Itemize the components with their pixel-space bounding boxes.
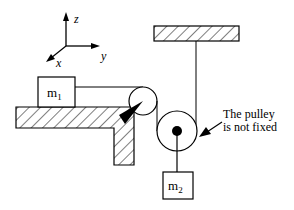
fixed-pulley bbox=[119, 87, 157, 124]
table-body bbox=[16, 107, 134, 165]
z-label: z bbox=[73, 12, 79, 26]
coordinate-axes: z y x bbox=[46, 12, 107, 70]
mass-m2: m2 bbox=[163, 172, 193, 199]
annotation-line2: is not fixed bbox=[223, 120, 277, 134]
annotation: The pulley is not fixed bbox=[199, 107, 277, 137]
y-arrow-icon bbox=[91, 43, 100, 49]
pulley-diagram: z y x m1 m2 The pulley is not bbox=[0, 0, 294, 210]
y-label: y bbox=[100, 49, 107, 63]
movable-pulley bbox=[157, 111, 197, 172]
annotation-line bbox=[207, 122, 222, 132]
ceiling bbox=[154, 26, 239, 41]
annotation-arrow-icon bbox=[199, 127, 211, 137]
z-arrow-icon bbox=[63, 12, 69, 21]
ceiling-support bbox=[154, 26, 239, 41]
mass-m1: m1 bbox=[38, 77, 75, 107]
x-label: x bbox=[55, 56, 62, 70]
annotation-line1: The pulley bbox=[223, 107, 275, 121]
table bbox=[16, 107, 134, 165]
